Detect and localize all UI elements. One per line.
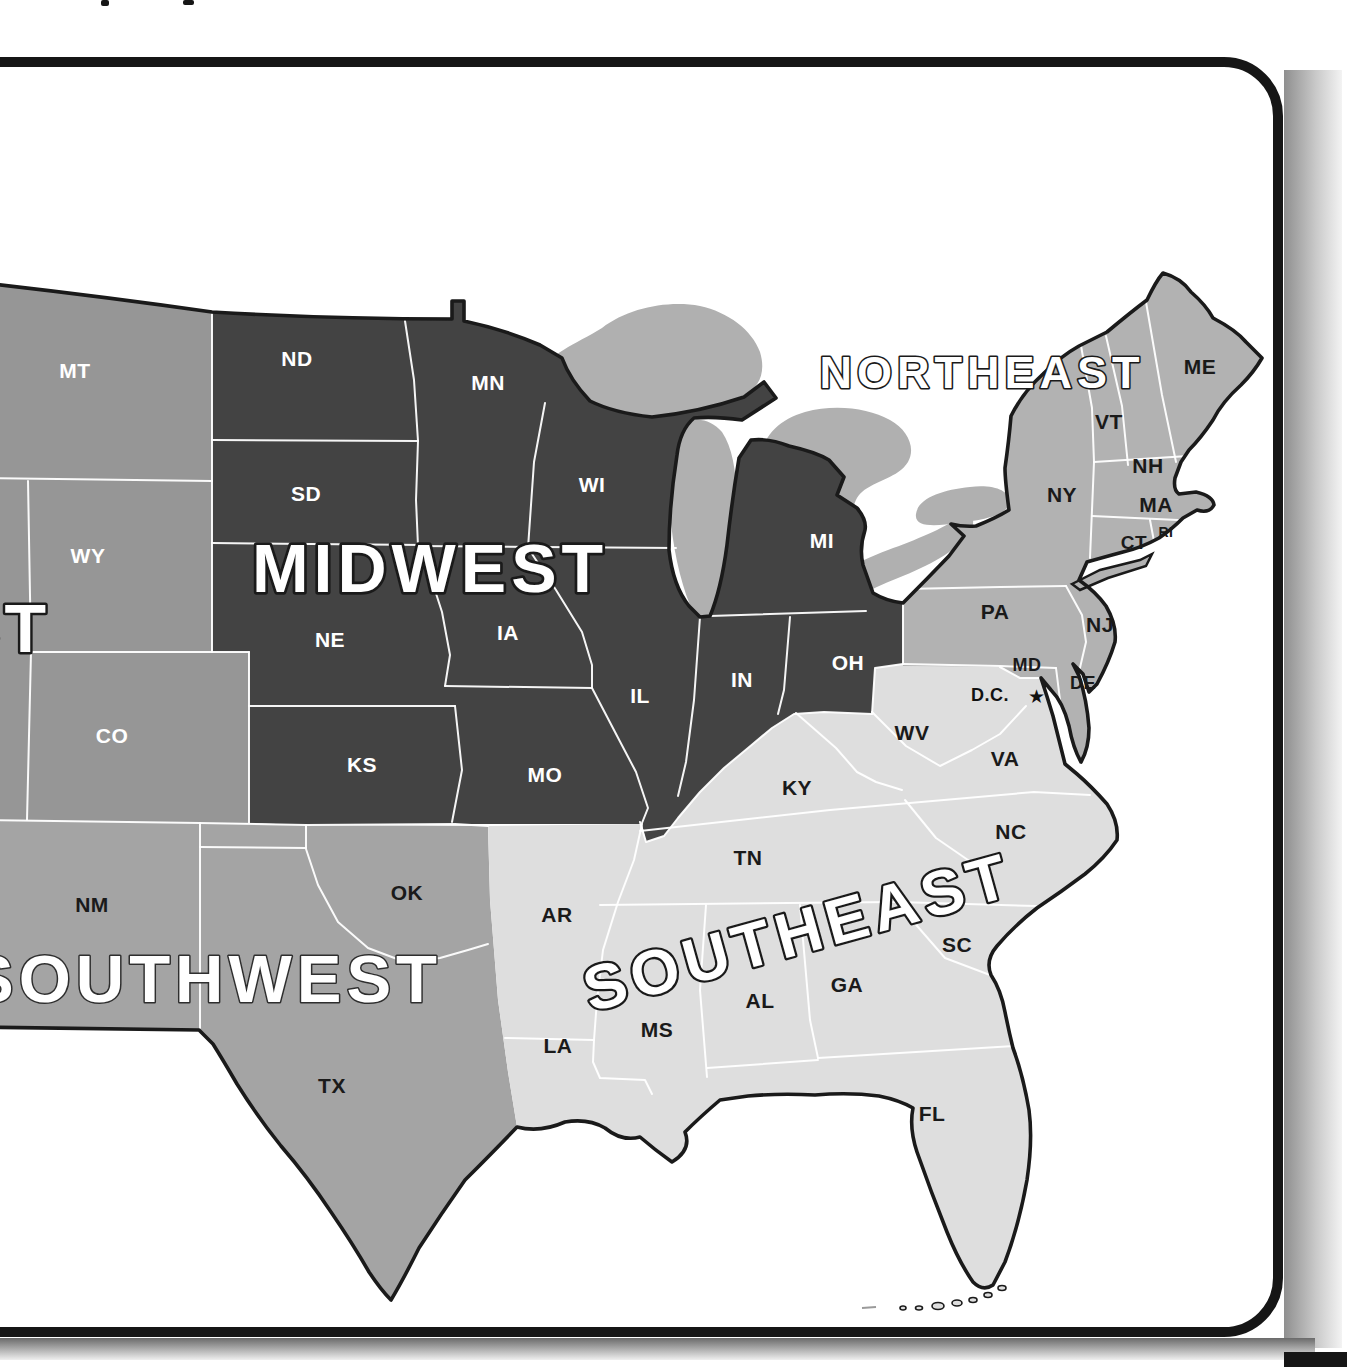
state-label-MI: MI (810, 529, 834, 552)
state-label-WY: WY (71, 544, 106, 567)
state-label-NY: NY (1047, 483, 1077, 506)
cropped-text-remnant (101, 0, 109, 6)
state-label-MD: MD (1013, 655, 1042, 675)
state-label-TX: TX (318, 1074, 346, 1097)
state-label-ME: ME (1184, 355, 1217, 378)
state-label-IN: IN (731, 668, 753, 691)
state-label-VT: VT (1095, 410, 1123, 433)
state-label-MT: MT (59, 359, 90, 382)
state-label-VA: VA (991, 747, 1020, 770)
state-label-IA: IA (497, 621, 519, 644)
book-page: MTWYCONDSDMNWIMINEIAILINOHKSMOMEVTNHNYMA… (0, 0, 1347, 1367)
state-label-AL: AL (746, 989, 775, 1012)
state-label-NH: NH (1132, 454, 1163, 477)
state-label-DC: D.C. (971, 685, 1009, 705)
state-label-KS: KS (347, 753, 377, 776)
cropped-text-remnant (183, 0, 194, 5)
state-label-WI: WI (579, 473, 606, 496)
state-label-ND: ND (281, 347, 312, 370)
state-label-OK: OK (391, 881, 424, 904)
region-label-west: WEST (0, 590, 50, 666)
frame-right-shadow (1284, 70, 1342, 1348)
dc-star-icon: ★ (1028, 686, 1045, 707)
state-label-MA: MA (1139, 493, 1173, 516)
state-label-GA: GA (831, 973, 864, 996)
state-label-NJ: NJ (1086, 613, 1114, 636)
region-label-midwest: MIDWEST (252, 530, 608, 606)
state-label-MS: MS (641, 1018, 674, 1041)
state-label-RI: RI (1159, 524, 1174, 540)
state-label-SC: SC (942, 933, 972, 956)
state-label-TN: TN (734, 846, 763, 869)
state-label-WV: WV (895, 721, 930, 744)
state-label-CO: CO (96, 724, 129, 747)
bottom-right-bar (1284, 1352, 1347, 1367)
state-label-FL: FL (919, 1102, 946, 1125)
state-label-PA: PA (981, 600, 1010, 623)
state-label-IL: IL (630, 684, 650, 707)
state-label-DE: DE (1070, 673, 1096, 693)
frame-bottom-shadow (0, 1338, 1315, 1360)
state-label-MN: MN (471, 371, 505, 394)
state-label-CT: CT (1121, 532, 1147, 553)
state-label-KY: KY (782, 776, 812, 799)
state-label-AR: AR (541, 903, 572, 926)
regions-map-figure: MTWYCONDSDMNWIMINEIAILINOHKSMOMEVTNHNYMA… (0, 0, 1347, 1367)
state-label-SD: SD (291, 482, 321, 505)
state-label-NE: NE (315, 628, 345, 651)
region-label-northeast: NORTHEAST (820, 347, 1145, 398)
state-label-NM: NM (75, 893, 109, 916)
state-label-MO: MO (528, 763, 563, 786)
state-label-LA: LA (544, 1034, 573, 1057)
state-label-OH: OH (832, 651, 865, 674)
region-label-southwest: SOUTHWEST (0, 941, 442, 1016)
